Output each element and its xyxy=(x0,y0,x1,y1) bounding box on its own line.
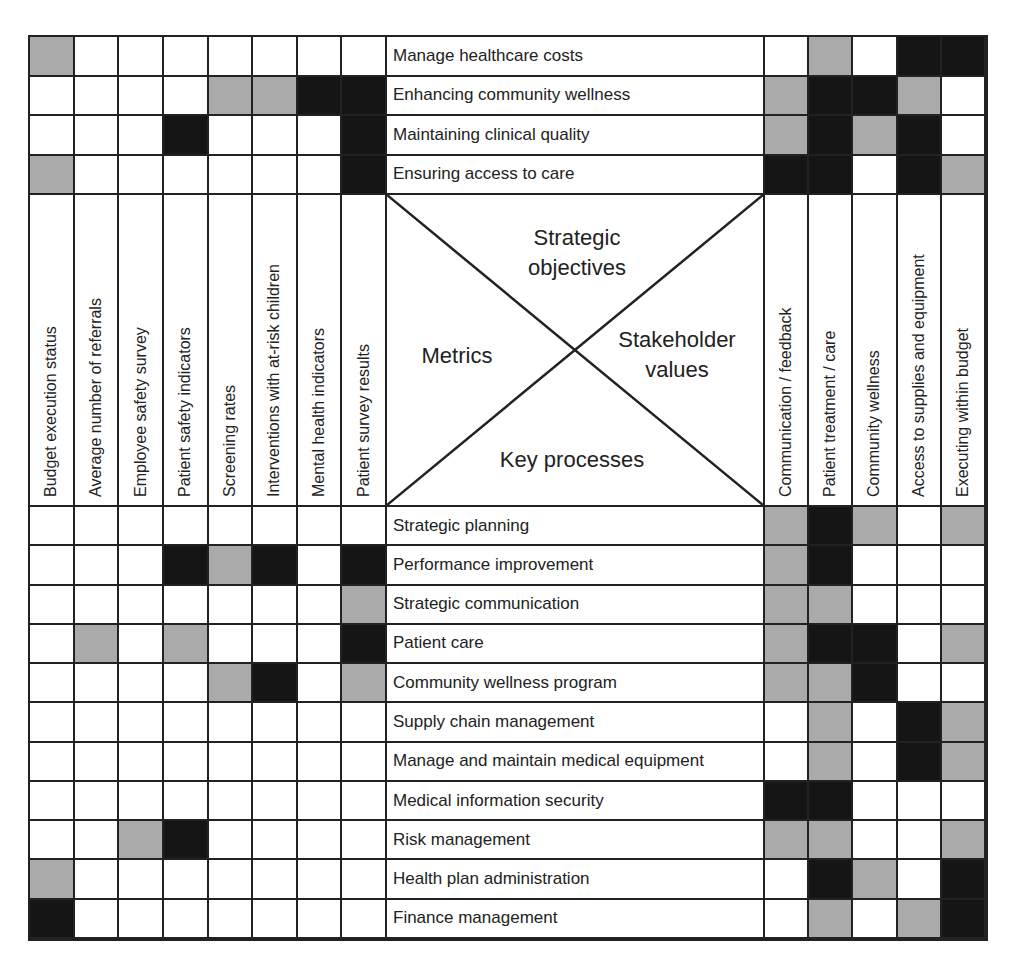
metric-cell xyxy=(119,586,164,625)
value-cell xyxy=(765,821,809,860)
metric-cell xyxy=(342,900,387,939)
metric-header: Average number of referrals xyxy=(75,195,120,507)
stakeholder-value-header: Community wellness xyxy=(853,195,897,507)
metric-cell xyxy=(30,625,75,664)
metric-cell xyxy=(164,546,209,585)
stakeholder-value-header-text: Communication / feedback xyxy=(777,308,795,497)
metric-cell xyxy=(164,586,209,625)
value-cell xyxy=(942,625,986,664)
metric-cell xyxy=(30,37,75,77)
metric-cell xyxy=(253,782,298,821)
value-cell xyxy=(898,116,942,156)
metric-cell xyxy=(253,586,298,625)
value-cell xyxy=(898,37,942,77)
metric-cell xyxy=(30,664,75,703)
metric-cell xyxy=(119,900,164,939)
stakeholder-value-header-text: Community wellness xyxy=(865,350,883,497)
value-cell xyxy=(898,664,942,703)
value-cell xyxy=(853,703,897,742)
value-cell xyxy=(898,507,942,546)
value-cell xyxy=(942,900,986,939)
metric-cell xyxy=(30,116,75,156)
value-cell xyxy=(765,625,809,664)
metric-cell xyxy=(75,586,120,625)
strategic-objectives-label: Strategicobjectives xyxy=(477,223,677,283)
value-cell xyxy=(853,860,897,899)
value-cell xyxy=(898,900,942,939)
metric-cell xyxy=(164,664,209,703)
metric-cell xyxy=(119,625,164,664)
stakeholder-value-header-text: Executing within budget xyxy=(954,328,972,497)
metric-cell xyxy=(30,782,75,821)
metric-cell xyxy=(75,821,120,860)
metric-header: Mental health indicators xyxy=(298,195,343,507)
metric-cell xyxy=(164,77,209,117)
metric-cell xyxy=(164,625,209,664)
metric-cell xyxy=(342,507,387,546)
value-cell xyxy=(765,507,809,546)
metric-cell xyxy=(30,77,75,117)
strategy-matrix: Manage healthcare costsEnhancing communi… xyxy=(28,35,988,941)
value-cell xyxy=(853,743,897,782)
process-label: Supply chain management xyxy=(387,703,765,742)
metric-cell xyxy=(298,77,343,117)
value-cell xyxy=(898,156,942,196)
metric-header: Interventions with at-risk children xyxy=(253,195,298,507)
stakeholder-values-label-line: Stakeholder xyxy=(597,325,757,355)
metric-cell xyxy=(164,900,209,939)
metric-cell xyxy=(298,116,343,156)
value-cell xyxy=(898,546,942,585)
metric-cell xyxy=(75,77,120,117)
value-cell xyxy=(853,664,897,703)
metric-cell xyxy=(30,507,75,546)
metric-cell xyxy=(75,546,120,585)
metric-cell xyxy=(119,77,164,117)
metric-cell xyxy=(342,77,387,117)
metric-cell xyxy=(164,507,209,546)
value-cell xyxy=(898,77,942,117)
value-cell xyxy=(809,821,853,860)
metric-cell xyxy=(342,625,387,664)
value-cell xyxy=(765,900,809,939)
strategic-objectives-label-line: Strategic xyxy=(477,223,677,253)
metric-header: Employee safety survey xyxy=(119,195,164,507)
process-label: Manage and maintain medical equipment xyxy=(387,743,765,782)
metric-cell xyxy=(342,37,387,77)
metrics-label: Metrics xyxy=(397,341,517,371)
metric-cell xyxy=(75,156,120,196)
metric-cell xyxy=(75,507,120,546)
value-cell xyxy=(942,586,986,625)
metric-cell xyxy=(209,625,254,664)
metric-cell xyxy=(164,37,209,77)
metric-cell xyxy=(253,37,298,77)
metric-cell xyxy=(75,782,120,821)
metric-cell xyxy=(30,703,75,742)
objective-label: Maintaining clinical quality xyxy=(387,116,765,156)
metric-cell xyxy=(164,860,209,899)
metric-header-text: Interventions with at-risk children xyxy=(265,264,283,497)
metric-cell xyxy=(253,116,298,156)
objective-label: Manage healthcare costs xyxy=(387,37,765,77)
metric-cell xyxy=(75,743,120,782)
process-label: Risk management xyxy=(387,821,765,860)
value-cell xyxy=(809,37,853,77)
key-processes-label-line: Key processes xyxy=(467,445,677,475)
metric-cell xyxy=(30,821,75,860)
value-cell xyxy=(765,703,809,742)
value-cell xyxy=(898,821,942,860)
value-cell xyxy=(809,116,853,156)
metric-cell xyxy=(342,586,387,625)
value-cell xyxy=(765,782,809,821)
value-cell xyxy=(765,546,809,585)
value-cell xyxy=(942,703,986,742)
value-cell xyxy=(809,664,853,703)
value-cell xyxy=(765,586,809,625)
value-cell xyxy=(853,37,897,77)
stakeholder-value-header: Access to supplies and equipment xyxy=(898,195,942,507)
metric-cell xyxy=(164,782,209,821)
metric-cell xyxy=(164,743,209,782)
value-cell xyxy=(853,821,897,860)
metric-cell xyxy=(253,860,298,899)
metric-cell xyxy=(298,625,343,664)
value-cell xyxy=(809,546,853,585)
